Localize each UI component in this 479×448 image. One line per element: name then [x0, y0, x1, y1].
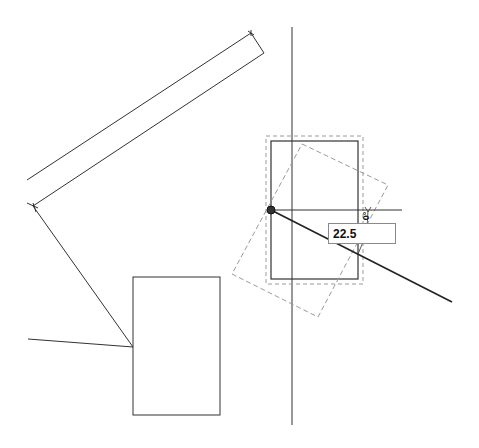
- pivot-point-handle[interactable]: [267, 206, 275, 214]
- endpoint-marker-icon: [248, 30, 254, 36]
- drawing-canvas[interactable]: [0, 0, 479, 448]
- left-line[interactable]: [28, 339, 133, 347]
- diagonal-leg-line[interactable]: [33, 206, 133, 347]
- long-bar-lower-edge[interactable]: [33, 53, 264, 206]
- long-bar-end-cap[interactable]: [251, 33, 264, 53]
- angle-indicator-label: 0°: [361, 212, 371, 221]
- long-bar-upper-edge[interactable]: [27, 33, 251, 180]
- small-rectangle[interactable]: [133, 277, 220, 415]
- angle-input[interactable]: 22.5: [328, 223, 396, 244]
